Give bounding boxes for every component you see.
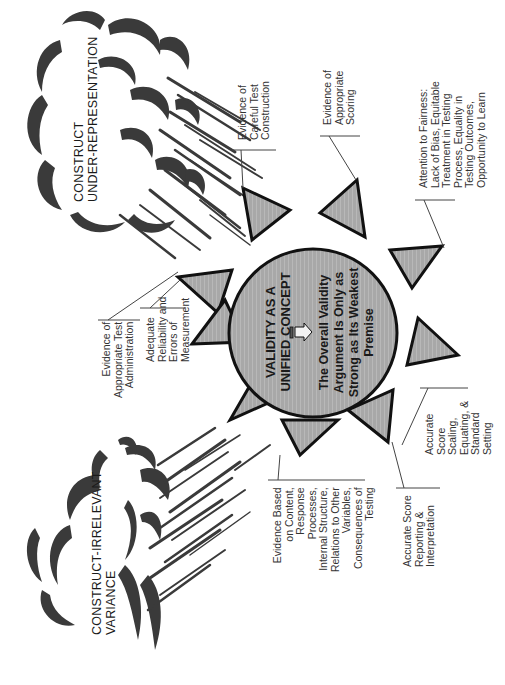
label-construct-under-representation: CONSTRUCT UNDER-REPRESENTATION <box>72 37 100 202</box>
premise-test-construction: Evidence of Careful Test Construction <box>237 81 272 140</box>
label-construct-irrelevant-variance: CONSTRUCT-IRRELEVANT VARIANCE <box>90 471 118 635</box>
premise-test-administration: Evidence of Appropriate Test Administrat… <box>101 322 136 398</box>
core-title: VALIDITY AS A UNIFIED CONCEPT <box>263 272 293 392</box>
ray-score-reporting-icon <box>282 420 338 455</box>
premise-content-evidence: Evidence Based on Content, Response Proc… <box>272 487 376 572</box>
premise-reliability: Adequate Reliability and Errors of Measu… <box>145 297 191 362</box>
premise-fairness: Attention to Fairness: Lack of Bias, Equ… <box>418 81 487 188</box>
premise-score-reporting: Accurate Score Reporting & Interpretatio… <box>402 495 437 567</box>
ray-test-construction-icon <box>243 188 290 240</box>
validity-diagram: CONSTRUCT UNDER-REPRESENTATION CONSTRUCT… <box>0 0 505 685</box>
ray-fairness-lower-icon <box>407 318 458 365</box>
premise-scoring: Evidence of Appropriate Scoring <box>322 70 357 125</box>
premise-scaling: Accurate Score Scaling, Equating, & Stan… <box>424 401 493 455</box>
rain-streaks-bottom-icon <box>148 428 270 610</box>
cloud-under-representation-icon <box>27 11 205 233</box>
ray-scoring-icon <box>320 180 365 237</box>
ray-fairness-icon <box>390 246 442 288</box>
core-message: The Overall Validity Argument Is Only as… <box>317 265 377 400</box>
